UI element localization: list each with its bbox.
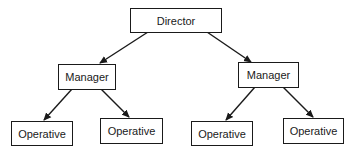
edge-director-to-manager-left	[100, 32, 148, 63]
node-operative-4-label: Operative	[290, 125, 338, 137]
node-operative-1-label: Operative	[18, 128, 66, 140]
node-operative-1: Operative	[11, 121, 73, 146]
edge-manager-left-to-operative-1	[44, 89, 72, 120]
node-manager-left: Manager	[58, 64, 116, 90]
edge-manager-left-to-operative-2	[101, 89, 129, 117]
node-manager-left-label: Manager	[65, 71, 108, 83]
node-operative-3: Operative	[191, 121, 253, 146]
node-manager-right: Manager	[238, 62, 299, 88]
edge-manager-right-to-operative-4	[283, 87, 313, 117]
node-manager-right-label: Manager	[247, 69, 290, 81]
node-director-label: Director	[157, 15, 196, 27]
edge-manager-right-to-operative-3	[226, 87, 255, 120]
node-operative-2: Operative	[100, 118, 163, 144]
node-operative-4: Operative	[283, 118, 344, 144]
node-operative-3-label: Operative	[198, 128, 246, 140]
node-operative-2-label: Operative	[108, 125, 156, 137]
node-director: Director	[130, 8, 222, 33]
edge-director-to-manager-right	[207, 32, 251, 62]
